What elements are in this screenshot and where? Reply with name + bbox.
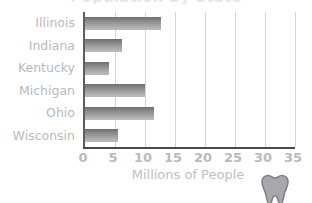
x-tick-label-35: 35 — [284, 150, 302, 165]
x-tick-label-5: 5 — [108, 150, 117, 165]
category-label-ohio: Ohio — [46, 102, 75, 125]
x-tick-label-20: 20 — [194, 150, 212, 165]
bar-row — [85, 80, 295, 103]
bar-illinois — [85, 17, 161, 30]
x-axis-tick-labels: 05101520253035 — [83, 150, 293, 168]
category-label-indiana: Indiana — [29, 35, 75, 58]
category-label-kentucky: Kentucky — [18, 57, 75, 80]
x-axis-line — [83, 147, 295, 149]
bar-row — [85, 57, 295, 80]
x-tick-label-15: 15 — [164, 150, 182, 165]
bar-chart-figure: Population by State IllinoisIndianaKentu… — [0, 0, 312, 203]
y-axis-category-labels: IllinoisIndianaKentuckyMichiganOhioWisco… — [0, 12, 79, 147]
bar-wisconsin — [85, 129, 118, 142]
category-label-illinois: Illinois — [35, 12, 75, 35]
clipped-chart-title: Population by State — [0, 0, 312, 4]
tooth-logo-icon — [254, 173, 296, 203]
category-label-wisconsin: Wisconsin — [13, 125, 75, 148]
x-tick-label-25: 25 — [224, 150, 242, 165]
x-tick-label-0: 0 — [78, 150, 87, 165]
x-tick-label-10: 10 — [134, 150, 152, 165]
bar-michigan — [85, 84, 145, 97]
bar-row — [85, 35, 295, 58]
bar-row — [85, 125, 295, 148]
x-tick-label-30: 30 — [254, 150, 272, 165]
gridline-35 — [295, 12, 296, 147]
bar-row — [85, 102, 295, 125]
bar-indiana — [85, 39, 122, 52]
bar-kentucky — [85, 62, 109, 75]
plot-area — [83, 12, 295, 147]
category-label-michigan: Michigan — [19, 80, 75, 103]
bar-series — [85, 12, 295, 147]
bar-ohio — [85, 107, 154, 120]
bar-row — [85, 12, 295, 35]
